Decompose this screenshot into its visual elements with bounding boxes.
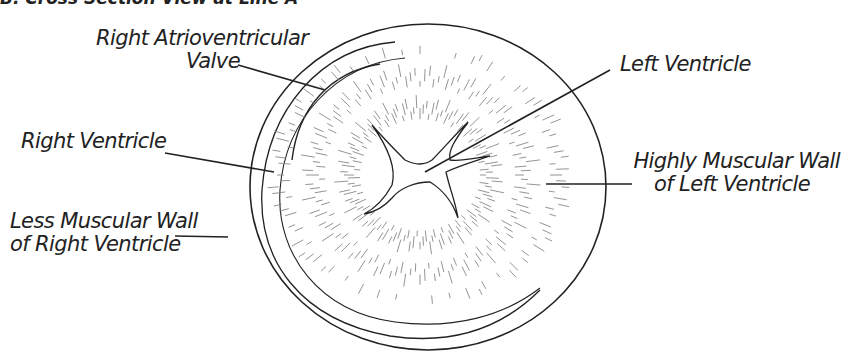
label-right-av-valve: Right Atrioventricular Valve <box>96 27 306 73</box>
label-highly-muscular-wall: Highly Muscular Wall of Left Ventricle <box>610 150 840 196</box>
label-right-ventricle: Right Ventricle <box>21 130 166 153</box>
label-line: Valve <box>96 50 306 73</box>
label-line: Right Ventricle <box>21 130 166 153</box>
label-line: Right Atrioventricular <box>96 27 306 50</box>
label-line: Left Ventricle <box>620 53 751 76</box>
label-line: of Right Ventricle <box>10 233 175 256</box>
label-line: Highly Muscular Wall <box>610 150 840 173</box>
label-line: Less Muscular Wall <box>10 210 175 233</box>
label-less-muscular-wall: Less Muscular Wall of Right Ventricle <box>10 210 175 256</box>
leader-right-ventricle <box>165 153 274 172</box>
leader-left-ventricle <box>425 70 610 172</box>
label-left-ventricle: Left Ventricle <box>620 53 751 76</box>
label-line: of Left Ventricle <box>610 173 840 196</box>
leader-less-muscular-wall <box>175 236 228 237</box>
